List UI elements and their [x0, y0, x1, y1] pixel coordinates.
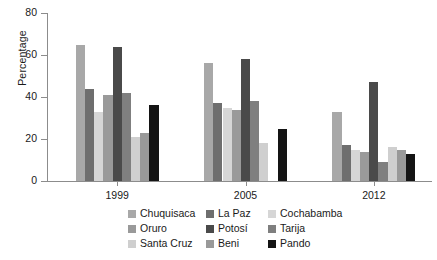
y-axis-tick: 40 [41, 97, 47, 98]
bar [213, 103, 222, 181]
bar [204, 63, 213, 181]
y-axis-line [47, 13, 48, 181]
bar [378, 162, 387, 181]
legend-item[interactable]: La Paz [206, 208, 268, 219]
bar [406, 154, 415, 181]
y-axis-tick-label: 0 [31, 174, 37, 186]
x-axis-tick [117, 181, 118, 186]
legend-label: La Paz [218, 208, 251, 219]
legend-item[interactable]: Santa Cruz [128, 238, 206, 249]
x-axis-tick [246, 181, 247, 186]
legend-swatch-icon [268, 240, 276, 248]
legend-label: Chuquisaca [140, 208, 195, 219]
y-axis-tick: 20 [41, 139, 47, 140]
legend-swatch-icon [206, 240, 214, 248]
legend-swatch-icon [206, 210, 214, 218]
y-axis-tick-label: 60 [25, 48, 37, 60]
legend-swatch-icon [128, 210, 136, 218]
bar [232, 110, 241, 181]
legend-label: Tarija [280, 223, 305, 234]
legend-label: Oruro [140, 223, 167, 234]
legend-item[interactable]: Oruro [128, 223, 206, 234]
legend-item[interactable]: Pando [268, 238, 364, 249]
bar [388, 147, 397, 181]
legend-item[interactable]: Cochabamba [268, 208, 364, 219]
bar [360, 152, 369, 181]
bar [85, 89, 94, 181]
legend-item[interactable]: Beni [206, 238, 268, 249]
bar [369, 82, 378, 181]
legend-item[interactable]: Potosí [206, 223, 268, 234]
bar [241, 59, 250, 181]
legend-label: Potosí [218, 223, 248, 234]
legend-swatch-icon [268, 225, 276, 233]
x-axis-tick-label: 1999 [105, 189, 128, 201]
bar [122, 93, 131, 181]
bar [250, 101, 259, 181]
bar [140, 133, 149, 181]
y-axis-tick-label: 20 [25, 132, 37, 144]
bar [351, 150, 360, 182]
bar [332, 112, 341, 181]
x-axis-tick-label: 2005 [234, 189, 257, 201]
x-axis-tick-label: 2012 [362, 189, 385, 201]
bar [259, 143, 268, 181]
y-axis-tick-label: 40 [25, 90, 37, 102]
bar [342, 145, 351, 181]
y-axis-tick: 80 [41, 13, 47, 14]
legend-item[interactable]: Tarija [268, 223, 364, 234]
legend-label: Santa Cruz [140, 238, 193, 249]
y-axis-tick-label: 80 [25, 6, 37, 18]
y-axis-tick: 60 [41, 55, 47, 56]
plot-area: 020406080 199920052012 [47, 13, 432, 181]
grouped-bar-chart: Percentage 020406080 199920052012 Chuqui… [0, 0, 437, 260]
bar [76, 45, 85, 182]
bar [149, 105, 158, 181]
legend-label: Pando [280, 238, 310, 249]
x-axis-tick [374, 181, 375, 186]
bar [278, 129, 287, 182]
bar [113, 47, 122, 181]
bar [94, 112, 103, 181]
y-axis-tick: 0 [41, 181, 47, 182]
bar [131, 137, 140, 181]
legend-label: Cochabamba [280, 208, 342, 219]
legend-swatch-icon [128, 225, 136, 233]
chart-legend: ChuquisacaLa PazCochabambaOruroPotosíTar… [128, 206, 428, 251]
legend-label: Beni [218, 238, 239, 249]
legend-swatch-icon [128, 240, 136, 248]
bar [397, 150, 406, 182]
legend-swatch-icon [268, 210, 276, 218]
legend-swatch-icon [206, 225, 214, 233]
bar [103, 95, 112, 181]
bar [223, 108, 232, 182]
legend-item[interactable]: Chuquisaca [128, 208, 206, 219]
